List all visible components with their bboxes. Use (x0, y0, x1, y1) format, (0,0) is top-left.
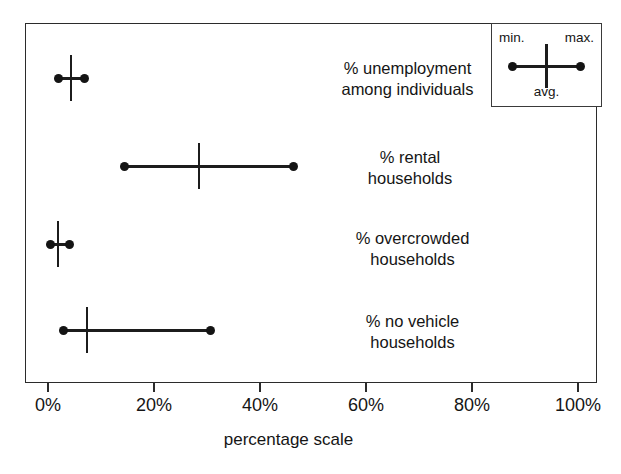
row-label-line2: households (340, 332, 485, 353)
row-label-unemployment: % unemployment among individuals (320, 58, 495, 100)
max-dot (289, 162, 298, 171)
range-line (125, 165, 294, 168)
x-tick-mark (47, 383, 49, 392)
min-dot (46, 240, 55, 249)
avg-tick (70, 55, 73, 101)
legend-max-label: max. (565, 30, 594, 45)
min-dot (120, 162, 129, 171)
legend-min-label: min. (499, 30, 525, 45)
legend-min-dot-icon (508, 62, 517, 71)
max-dot (80, 74, 89, 83)
row-label-line1: % overcrowded (330, 228, 495, 249)
min-dot (59, 326, 68, 335)
max-dot (65, 240, 74, 249)
x-tick-label: 60% (348, 395, 384, 416)
x-tick-mark (365, 383, 367, 392)
row-label-line2: households (340, 168, 480, 189)
min-dot (54, 74, 63, 83)
row-label-overcrowded: % overcrowded households (330, 228, 495, 270)
x-tick-label: 100% (555, 395, 601, 416)
row-label-no-vehicle: % no vehicle households (340, 311, 485, 353)
x-tick-label: 20% (136, 395, 172, 416)
row-label-line1: % no vehicle (340, 311, 485, 332)
avg-tick (198, 143, 201, 189)
x-tick-mark (259, 383, 261, 392)
row-label-line2: households (330, 249, 495, 270)
x-tick-mark (153, 383, 155, 392)
legend-range-line-icon (512, 65, 581, 68)
avg-tick (57, 221, 60, 267)
x-tick-label: 0% (35, 395, 61, 416)
legend: min. max. avg. (491, 23, 602, 107)
legend-max-dot-icon (576, 62, 585, 71)
x-tick-label: 80% (454, 395, 490, 416)
max-dot (206, 326, 215, 335)
legend-avg-label: avg. (492, 84, 601, 99)
x-tick-mark (471, 383, 473, 392)
avg-tick (86, 307, 89, 353)
x-tick-label: 40% (242, 395, 278, 416)
row-label-rental: % rental households (340, 147, 480, 189)
row-label-line1: % unemployment (320, 58, 495, 79)
row-label-line1: % rental (340, 147, 480, 168)
x-axis-title-wrap: percentage scale (0, 430, 621, 450)
legend-inner: min. max. avg. (492, 24, 601, 106)
row-label-line2: among individuals (320, 79, 495, 100)
range-chart-figure: % unemployment among individuals % renta… (0, 0, 621, 474)
x-axis-title: percentage scale (224, 430, 353, 450)
x-tick-mark (577, 383, 579, 392)
